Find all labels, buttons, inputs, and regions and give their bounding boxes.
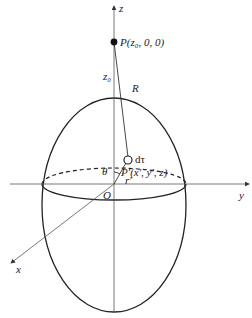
z0-label: z₀ [102, 70, 111, 82]
origin-label: O [103, 189, 111, 201]
point-p-dot [111, 39, 118, 46]
volume-element-label: dτ [135, 153, 146, 165]
volume-element-icon [124, 156, 132, 164]
x-axis [11, 184, 114, 263]
point-p-label: P(z₀, 0, 0) [119, 36, 164, 49]
diagram-canvas: z P(z₀, 0, 0) z₀ R dτ P′(x′, y′, z) θ r′… [0, 0, 252, 318]
y-axis-label: y [238, 189, 244, 201]
r-prime-label: r′ [125, 174, 132, 186]
theta-label: θ [102, 165, 108, 177]
z-axis-label: z [118, 2, 124, 14]
theta-arc [114, 172, 120, 174]
distance-r-label: R [131, 82, 139, 94]
ellipsoid-diagram: z P(z₀, 0, 0) z₀ R dτ P′(x′, y′, z) θ r′… [0, 0, 252, 318]
x-axis-label: x [15, 263, 21, 275]
